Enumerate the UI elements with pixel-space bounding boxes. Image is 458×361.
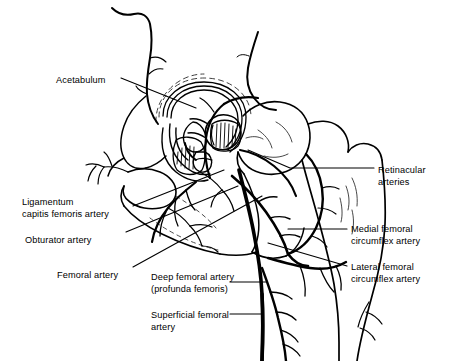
obturator-foramen <box>121 169 176 209</box>
medial-femur-outline <box>244 174 304 258</box>
leader-lateral-circumflex <box>268 243 347 266</box>
pelvis-outline <box>108 96 166 176</box>
lateral-circumflex-artery <box>268 258 346 269</box>
artery-superior-left-branch <box>136 57 166 94</box>
label-superficial-femoral-artery-line1: Superficial femoral <box>151 309 229 322</box>
leader-acetabulum <box>121 78 196 108</box>
anatomical-figure: Acetabulum Ligamentum capitis femoris ar… <box>0 0 458 361</box>
label-lateral-femoral-circumflex-artery-line2: circumflex artery <box>351 273 420 286</box>
superficial-femoral-artery <box>262 294 263 361</box>
pelvic-branch-network <box>86 152 128 184</box>
label-femoral-artery: Femoral artery <box>57 269 118 282</box>
label-obturator-artery: Obturator artery <box>25 234 91 247</box>
label-lateral-femoral-circumflex-artery-line1: Lateral femoral <box>351 261 414 274</box>
label-deep-femoral-artery-line1: Deep femoral artery <box>151 271 234 284</box>
femoral-artery <box>239 170 263 361</box>
pubic-ramus-dashed <box>150 196 218 250</box>
label-acetabulum: Acetabulum <box>56 74 106 87</box>
circumflex-ascending-twigs <box>312 187 339 247</box>
leader-ligamentum-capitis <box>133 170 224 206</box>
greater-trochanter <box>237 102 382 175</box>
label-superficial-femoral-artery-line2: artery <box>151 321 175 334</box>
label-ligamentum-capitis-femoris-artery-line2: capitis femoris artery <box>22 208 109 221</box>
label-medial-femoral-circumflex-artery-line2: circumflex artery <box>351 235 420 248</box>
label-retinacular-arteries-line1: Retinacular <box>378 164 426 177</box>
label-deep-femoral-artery-line2: (profunda femoris) <box>151 283 228 296</box>
label-medial-femoral-circumflex-artery-line1: Medial femoral <box>351 223 413 236</box>
label-ligamentum-capitis-femoris-artery-line1: Ligamentum <box>22 196 74 209</box>
ischium-outline <box>124 206 256 255</box>
label-retinacular-arteries-line2: arteries <box>378 176 409 189</box>
artery-superior-right-branch <box>237 55 249 57</box>
femoral-neck-hatch <box>173 137 205 174</box>
leader-femoral <box>133 196 262 267</box>
